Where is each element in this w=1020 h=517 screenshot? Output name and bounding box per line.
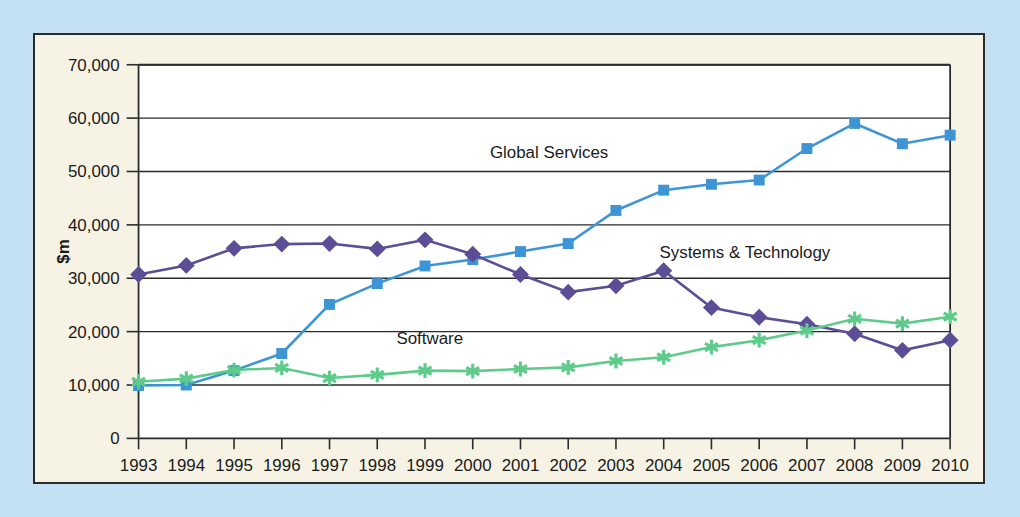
y-tick-label: 70,000	[68, 56, 120, 75]
data-point-marker	[849, 118, 860, 129]
data-point-marker	[420, 261, 431, 272]
x-tick-label: 2008	[836, 456, 874, 475]
data-point-marker	[754, 175, 765, 186]
x-tick-label: 1995	[215, 456, 253, 475]
data-point-marker	[897, 138, 908, 149]
x-tick-label: 1993	[120, 456, 158, 475]
x-tick-label: 2001	[502, 456, 540, 475]
series-label-global-services: Global Services	[490, 143, 608, 162]
y-tick-label: 40,000	[68, 216, 120, 235]
data-point-marker	[610, 205, 621, 216]
data-point-marker	[372, 278, 383, 289]
data-point-marker	[706, 179, 717, 190]
x-tick-label: 2007	[788, 456, 826, 475]
x-tick-label: 1996	[263, 456, 301, 475]
x-tick-label: 1997	[311, 456, 349, 475]
y-tick-label: 60,000	[68, 109, 120, 128]
x-tick-label: 2004	[645, 456, 683, 475]
x-tick-label: 2006	[740, 456, 778, 475]
x-tick-label: 2000	[454, 456, 492, 475]
chart-figure-frame: 010,00020,00030,00040,00050,00060,00070,…	[33, 33, 985, 484]
y-tick-label: 50,000	[68, 162, 120, 181]
y-axis-title-group: $m	[54, 239, 73, 263]
x-tick-label: 2009	[884, 456, 922, 475]
x-tick-marks-group	[139, 438, 951, 449]
y-tick-label: 0	[110, 429, 119, 448]
x-tick-label: 2002	[549, 456, 587, 475]
series-label-software: Software	[396, 329, 463, 348]
x-tick-labels-group: 1993199419951996199719981999200020012002…	[120, 456, 969, 475]
x-tick-label: 2010	[931, 456, 969, 475]
y-tick-label: 30,000	[68, 269, 120, 288]
data-point-marker	[658, 185, 669, 196]
data-point-marker	[515, 246, 526, 257]
data-point-marker	[276, 348, 287, 359]
y-tick-label: 10,000	[68, 376, 120, 395]
x-tick-label: 1998	[358, 456, 396, 475]
line-chart: 010,00020,00030,00040,00050,00060,00070,…	[35, 35, 983, 482]
y-tick-labels-group: 010,00020,00030,00040,00050,00060,00070,…	[68, 56, 120, 449]
data-point-marker	[563, 238, 574, 249]
series-label-systems-technology: Systems & Technology	[659, 244, 830, 263]
x-tick-label: 1994	[167, 456, 205, 475]
data-point-marker	[324, 299, 335, 310]
y-axis-title: $m	[54, 239, 73, 263]
x-tick-label: 2005	[693, 456, 731, 475]
y-tick-label: 20,000	[68, 323, 120, 342]
x-tick-label: 2003	[597, 456, 635, 475]
data-point-marker	[801, 143, 812, 154]
x-tick-label: 1999	[406, 456, 444, 475]
data-point-marker	[945, 130, 956, 141]
